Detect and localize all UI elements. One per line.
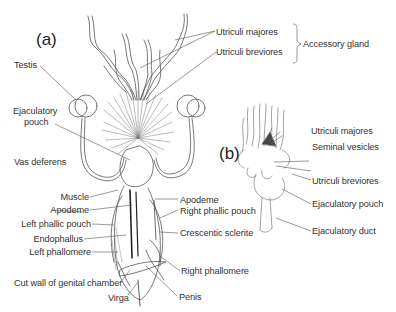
label-a-left-phallomere: Left phallomere [10, 247, 91, 257]
label-b-ejaculatory-duct: Ejaculatory duct [312, 226, 376, 236]
panel-label-a: (a) [36, 30, 57, 50]
label-b-seminal-vesicles: Seminal vesicles [312, 142, 379, 152]
label-b-ejaculatory-pouch: Ejaculatory pouch [312, 199, 383, 209]
label-b-utriculi-breviores: Utriculi breviores [312, 176, 379, 186]
label-a-ejaculatory-pouch-line2: pouch [24, 117, 49, 127]
label-a-vas-deferens: Vas deferens [14, 157, 66, 167]
label-a-endophallus: Endophallus [20, 234, 83, 244]
label-b-utriculi-majores: Utriculi majores [311, 126, 373, 136]
label-a-apodeme-left: Apodeme [30, 205, 89, 215]
label-a-apodeme-right: Apodeme [180, 195, 219, 205]
label-a-right-phallomere: Right phallomere [181, 266, 249, 276]
label-a-muscle: Muscle [30, 192, 89, 202]
label-a-right-phallic-pouch: Right phallic pouch [180, 206, 256, 216]
label-a-testis: Testis [14, 60, 37, 70]
panel-label-b: (b) [219, 144, 240, 164]
label-a-penis: Penis [179, 292, 201, 302]
label-a-cut-wall: Cut wall of genital chamber [14, 278, 122, 288]
label-a-virga: Virga [108, 293, 129, 303]
label-a-ejaculatory-pouch-line1: Ejaculatory [13, 106, 57, 116]
accessory-gland-label: Accessory gland [303, 39, 369, 49]
label-a-left-phallic-pouch: Left phallic pouch [2, 219, 91, 229]
label-a-utriculi-breviores: Utriculi breviores [216, 47, 283, 57]
label-a-utriculi-majores: Utriculi majores [216, 27, 278, 37]
label-a-crescentic-sclerite: Crescentic sclerite [180, 228, 253, 238]
